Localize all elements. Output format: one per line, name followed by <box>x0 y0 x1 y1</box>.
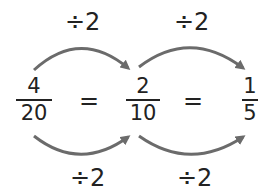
top-arrow-1 <box>34 48 128 70</box>
numerator: 1 <box>243 76 256 99</box>
numerator: 2 <box>136 76 149 99</box>
top-divide-label-2: ÷2 <box>174 10 209 34</box>
fraction-4-20: 4 20 <box>16 76 52 124</box>
top-divide-label-1: ÷2 <box>65 10 100 34</box>
equals-sign-1: = <box>79 89 99 113</box>
denominator: 5 <box>243 101 256 124</box>
denominator: 10 <box>130 101 157 124</box>
fraction-1-5: 1 5 <box>242 76 258 124</box>
denominator: 20 <box>21 101 48 124</box>
bottom-arrow-2 <box>139 136 243 154</box>
bottom-arrow-1 <box>34 136 128 154</box>
fraction-2-10: 2 10 <box>126 76 160 124</box>
numerator: 4 <box>27 76 40 99</box>
equals-sign-2: = <box>183 89 203 113</box>
bottom-divide-label-1: ÷2 <box>70 166 105 190</box>
bottom-divide-label-2: ÷2 <box>177 166 212 190</box>
top-arrow-2 <box>139 48 243 68</box>
